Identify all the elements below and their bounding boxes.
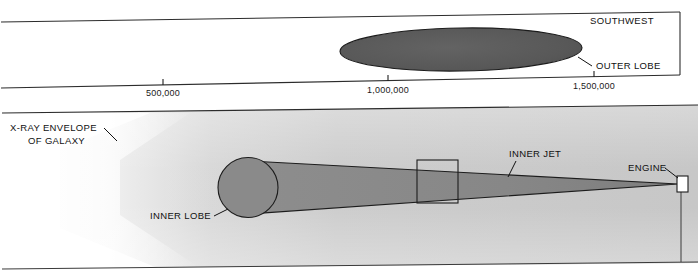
tick-label-1-5m: 1,500,000 — [573, 81, 615, 91]
southwest-label: SOUTHWEST — [590, 15, 654, 26]
outer-lobe-shape — [340, 26, 583, 73]
diagram-canvas: SOUTHWEST OUTER LOBE 500,000 1,000,000 1… — [0, 0, 700, 278]
x-ray-envelope-label-line2: OF GALAXY — [28, 135, 85, 146]
inner-jet-label: INNER JET — [509, 148, 561, 159]
outer-scale-panel: SOUTHWEST OUTER LOBE 500,000 1,000,000 1… — [1, 12, 680, 98]
outer-lobe-label: OUTER LOBE — [596, 60, 661, 71]
engine-marker — [677, 176, 688, 192]
panel-top-rule — [1, 12, 680, 22]
outer-lobe — [340, 26, 583, 73]
x-ray-envelope-label-line1: X-RAY ENVELOPE — [10, 122, 97, 133]
tick-label-500k: 500,000 — [146, 88, 180, 98]
inner-lobe-label: INNER LOBE — [150, 210, 211, 221]
engine-label: ENGINE — [628, 162, 667, 173]
inner-lobe-shape — [218, 158, 278, 218]
inner-lobe — [218, 158, 278, 218]
tick-label-1m: 1,000,000 — [367, 85, 409, 95]
axis-ticks: 500,000 1,000,000 1,500,000 — [146, 71, 615, 98]
astronomy-jet-diagram: SOUTHWEST OUTER LOBE 500,000 1,000,000 1… — [0, 0, 700, 278]
outer-lobe-leader-line — [578, 57, 592, 66]
inner-detail-panel: X-RAY ENVELOPE OF GALAXY INNER LOBE INNE… — [2, 105, 698, 270]
